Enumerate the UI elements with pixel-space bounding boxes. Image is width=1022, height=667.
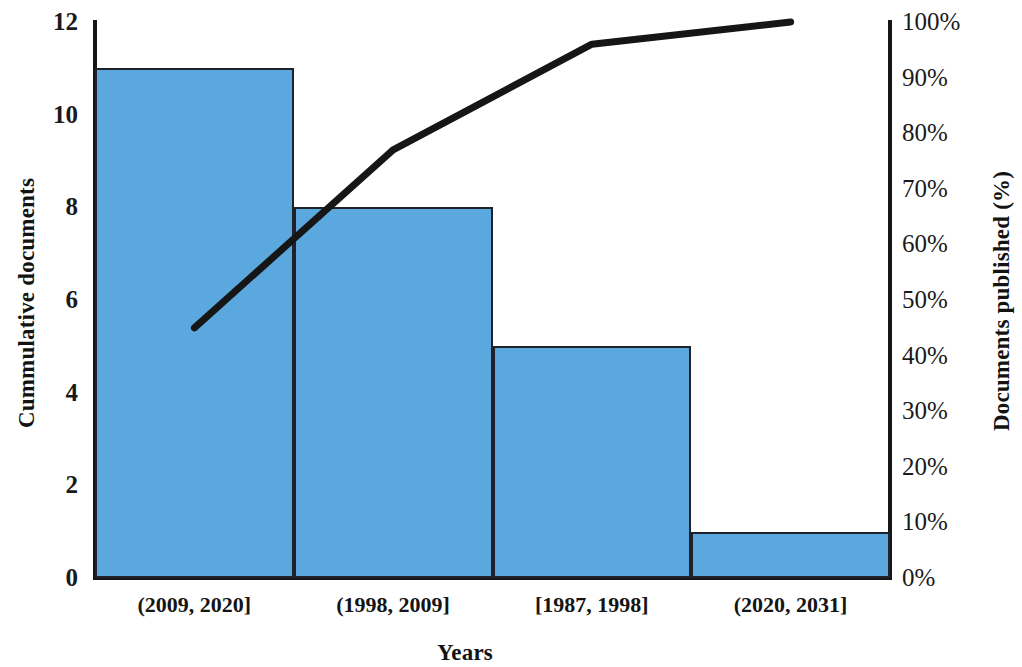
y-axis-left-tick: 6 [0, 286, 78, 314]
y-axis-right-tick: 30% [902, 397, 948, 425]
plot-area [95, 22, 890, 578]
x-axis-category-labels: (2009, 2020](1998, 2009][1987, 1998](202… [95, 592, 890, 632]
y-axis-right-tick: 10% [902, 508, 948, 536]
x-axis-category-label: (2020, 2031] [691, 592, 890, 632]
y-axis-right-tick: 70% [902, 175, 948, 203]
y-axis-left-tick: 12 [0, 8, 78, 36]
y-axis-left-tick: 10 [0, 101, 78, 129]
y-axis-right-tick: 80% [902, 119, 948, 147]
y-axis-right-ticks: 0%10%20%30%40%50%60%70%80%90%100% [902, 0, 1020, 667]
y-axis-right-tick: 90% [902, 64, 948, 92]
x-axis-category-label: (2009, 2020] [95, 592, 294, 632]
x-axis-category-label: [1987, 1998] [493, 592, 692, 632]
x-axis-category-label: (1998, 2009] [294, 592, 493, 632]
y-axis-right-tick: 100% [902, 8, 960, 36]
y-axis-left-tick: 2 [0, 471, 78, 499]
y-axis-left-tick: 4 [0, 379, 78, 407]
y-axis-right-tick: 60% [902, 230, 948, 258]
x-axis-title: Years [0, 640, 930, 666]
y-axis-left-tick: 0 [0, 564, 78, 592]
y-axis-right-tick: 50% [902, 286, 948, 314]
y-axis-left-tick: 8 [0, 193, 78, 221]
cumulative-line [95, 22, 890, 578]
y-axis-right-tick: 40% [902, 342, 948, 370]
pareto-chart: Cummulative documents Documents publishe… [0, 0, 1022, 667]
y-axis-right-tick: 20% [902, 453, 948, 481]
y-axis-left-ticks: 024681012 [0, 0, 78, 667]
y-axis-right-tick: 0% [902, 564, 935, 592]
